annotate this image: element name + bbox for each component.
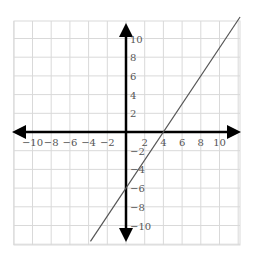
x-tick-label: 8 (198, 137, 204, 148)
coordinate-plane: −10−8−6−4−2246810 108642−2−4−6−8−10 (0, 0, 254, 257)
x-tick-label: −8 (44, 137, 59, 148)
y-tick-label: −10 (130, 221, 151, 232)
series-line (90, 17, 240, 241)
x-tick-label: −2 (100, 137, 115, 148)
x-tick-label: 10 (213, 137, 226, 148)
y-tick-label: −2 (130, 146, 145, 157)
y-tick-label: 4 (130, 90, 136, 101)
y-tick-label: 2 (130, 108, 136, 119)
plotted-line (90, 17, 240, 241)
x-tick-label: −10 (22, 137, 43, 148)
y-tick-label: 8 (130, 52, 136, 63)
x-tick-label: 6 (179, 137, 185, 148)
axes (12, 23, 241, 242)
y-tick-label: 10 (130, 34, 143, 45)
x-tick-label: 4 (160, 137, 166, 148)
x-axis-right-arrow-icon (227, 125, 241, 139)
x-tick-label: −6 (63, 137, 78, 148)
y-tick-label: 6 (130, 71, 136, 82)
y-tick-label: −4 (130, 164, 145, 175)
x-tick-labels: −10−8−6−4−2246810 (22, 137, 226, 148)
y-tick-label: −8 (130, 202, 145, 213)
y-tick-label: −6 (130, 183, 145, 194)
x-tick-label: −4 (81, 137, 96, 148)
